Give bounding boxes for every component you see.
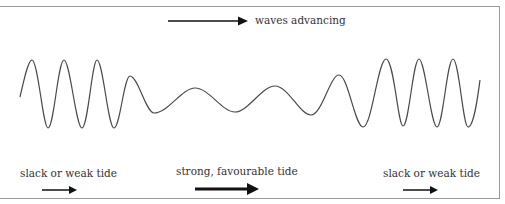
waves-advancing-label: waves advancing bbox=[255, 14, 346, 26]
weak-tide-arrow-left-icon bbox=[42, 186, 77, 194]
zone-label-center: strong, favourable tide bbox=[176, 165, 298, 177]
weak-tide-arrow-right-icon bbox=[403, 186, 438, 194]
zone-label-left: slack or weak tide bbox=[20, 167, 117, 179]
wave-curve bbox=[20, 59, 480, 128]
strong-tide-arrow-icon bbox=[195, 183, 259, 195]
waves-advancing-arrow-icon bbox=[168, 17, 248, 26]
zone-label-right: slack or weak tide bbox=[383, 167, 480, 179]
